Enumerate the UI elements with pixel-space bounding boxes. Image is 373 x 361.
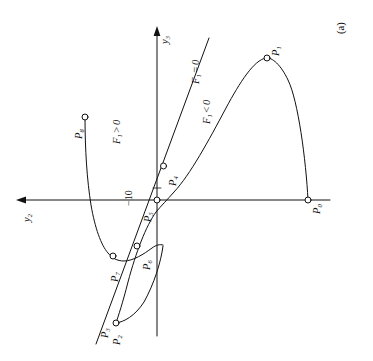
point-label-p6-main: P: [141, 264, 152, 270]
region-f1-positive-symbol: F: [111, 138, 122, 144]
axis-label-y3-main: y: [159, 39, 170, 44]
region-f1-positive-sub: 1: [116, 134, 123, 137]
figure-container: y2 y3 −10 F1>0 F1<0 F1=0 P0 P1 P2 P3 P4 …: [0, 0, 373, 361]
point-label-p8-sub: 8: [78, 129, 85, 132]
point-label-p2-main: P: [111, 339, 122, 345]
point-label-p7: P7: [110, 272, 121, 282]
marker-p8: [82, 114, 88, 120]
point-label-p1-main: P: [270, 50, 281, 56]
point-label-p4-main: P: [167, 180, 178, 186]
marker-p7: [110, 253, 116, 259]
marker-p6: [134, 243, 140, 249]
vertical-axis-arrow: [154, 26, 161, 36]
point-label-p5-main: P: [142, 216, 153, 222]
curve-f1-zero-symbol: F: [190, 78, 201, 84]
curve-f1-zero-sub: 1: [195, 74, 202, 77]
region-f1-positive-value: 0: [111, 120, 122, 125]
axis-label-y3: y3: [160, 36, 171, 44]
point-label-p7-main: P: [109, 276, 120, 282]
region-f1-negative-value: 0: [201, 100, 212, 105]
region-f1-negative-sub: 1: [206, 114, 213, 117]
figure-caption: (a): [336, 22, 347, 34]
point-label-p3-sub: 3: [104, 328, 111, 331]
point-label-p4: P4: [168, 176, 179, 186]
point-label-p2-sub: 2: [116, 335, 123, 338]
point-label-p0-sub: 0: [316, 204, 323, 207]
point-label-p4-sub: 4: [172, 176, 179, 179]
figure-canvas: [0, 0, 373, 361]
point-label-p0: P0: [312, 204, 323, 214]
curve-f1-zero-value: 0: [190, 60, 201, 65]
point-label-p1: P1: [271, 46, 282, 56]
axis-label-y3-sub: 3: [164, 36, 171, 39]
region-f1-positive-operator: >: [111, 125, 122, 134]
curve-label-f1-zero: F1=0: [191, 60, 202, 84]
point-label-p8-main: P: [73, 133, 84, 139]
trajectory-parabola-lower: [116, 246, 163, 323]
point-label-p2: P2: [112, 335, 123, 345]
point-label-p5: P5: [143, 212, 154, 222]
marker-p5: [154, 197, 160, 203]
region-label-f1-positive: F1>0: [112, 120, 123, 144]
region-f1-negative-operator: <: [201, 105, 212, 114]
region-label-f1-negative: F1<0: [202, 100, 213, 124]
axis-label-y2-sub: 2: [26, 214, 33, 217]
trajectory-parabola-upper: [85, 117, 163, 261]
trajectory-cubic: [116, 58, 308, 323]
point-label-p0-main: P: [311, 208, 322, 214]
marker-p2-p3: [113, 320, 119, 326]
point-label-p3: P3: [100, 328, 111, 338]
point-label-p6: P6: [142, 260, 153, 270]
point-label-p8: P8: [74, 129, 85, 139]
axis-label-y2-main: y: [21, 217, 32, 222]
point-label-p6-sub: 6: [146, 260, 153, 263]
point-label-p3-main: P: [99, 332, 110, 338]
marker-p0: [305, 197, 311, 203]
region-f1-negative-symbol: F: [201, 118, 212, 124]
axis-label-y2: y2: [22, 214, 33, 222]
curve-f1-zero-operator: =: [190, 65, 201, 74]
marker-p4: [161, 163, 167, 169]
horizontal-axis-arrow: [16, 197, 26, 204]
point-label-p1-sub: 1: [275, 46, 282, 49]
tick-label-minus-ten: −10: [124, 190, 134, 206]
point-label-p5-sub: 5: [147, 212, 154, 215]
point-label-p7-sub: 7: [114, 272, 121, 275]
